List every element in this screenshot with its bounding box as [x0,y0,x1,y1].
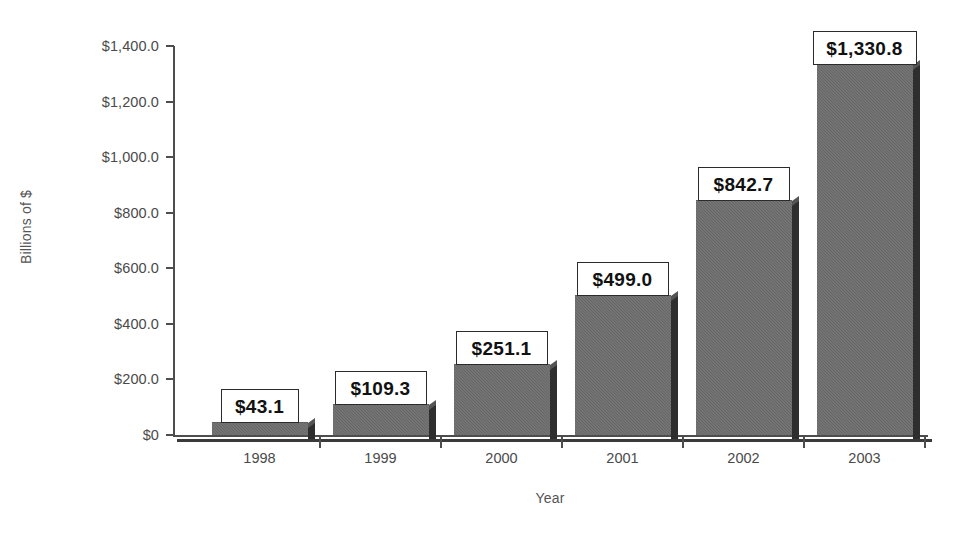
bar [454,365,550,435]
x-axis-tick [561,437,563,448]
y-axis-tick [166,45,174,47]
x-axis-category-label: 1998 [199,450,320,466]
y-axis-tick [166,434,174,436]
y-axis-tick [166,101,174,103]
bar-value-label: $499.0 [577,262,669,296]
bar-front-face [575,295,671,435]
bar-value-label: $842.7 [698,167,790,201]
y-axis-tick-label: $600.0 [114,260,159,276]
y-axis-tick [166,156,174,158]
x-axis-tick [319,437,321,448]
bar-side-face [550,365,557,439]
x-axis-category-label: 2000 [441,450,562,466]
bar-chart: Billions of $ Year $1,400.0$1,200.0$1,00… [0,0,976,533]
bar-side-face [429,405,436,439]
x-axis-tick [682,437,684,448]
bar-side-face [913,65,920,439]
x-axis-tick [803,437,805,448]
y-axis-tick [166,378,174,380]
bar-value-label: $43.1 [221,389,299,423]
bar-value-label: $1,330.8 [813,31,917,65]
bar-value-label: $251.1 [456,331,548,365]
y-axis-tick-label: $200.0 [114,371,159,387]
bar-side-face [792,201,799,439]
bar [817,65,913,435]
bar-front-face [212,422,308,435]
y-axis-tick [166,267,174,269]
plot-area: $1,400.0$1,200.0$1,000.0$800.0$600.0$400… [173,46,928,437]
bar-front-face [333,404,429,435]
bar-front-face [696,200,792,435]
y-axis-title: Billions of $ [18,167,34,287]
y-axis-tick-label: $0 [143,427,159,443]
y-axis-tick-label: $800.0 [114,205,159,221]
bar-side-face [671,296,678,439]
bar [575,296,671,435]
y-axis-tick-label: $400.0 [114,316,159,332]
bar-front-face [817,64,913,435]
bar-front-face [454,364,550,435]
x-axis-category-label: 2003 [804,450,925,466]
y-axis-tick-label: $1,400.0 [102,38,159,54]
x-axis-title: Year [490,490,610,506]
bar-value-label: $109.3 [335,371,427,405]
bar [212,423,308,435]
x-axis-category-label: 1999 [320,450,441,466]
y-axis-tick [166,212,174,214]
y-axis-tick-label: $1,000.0 [102,149,159,165]
x-axis-category-label: 2001 [562,450,683,466]
x-axis-category-label: 2002 [683,450,804,466]
y-axis-tick-label: $1,200.0 [102,94,159,110]
y-axis-tick [166,323,174,325]
bar [333,405,429,435]
x-axis-shadow [177,439,932,442]
x-axis-tick [924,437,926,448]
x-axis-tick [440,437,442,448]
bar [696,201,792,435]
